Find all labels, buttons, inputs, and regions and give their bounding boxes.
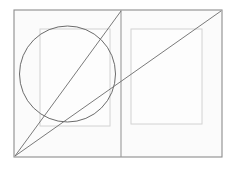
diagram-root: Page Construction Diagram Two-page sprea… [0,0,234,172]
construction-diagram [0,0,234,172]
recto-text-block-outline [131,29,202,124]
verso-text-block-outline [40,29,110,126]
